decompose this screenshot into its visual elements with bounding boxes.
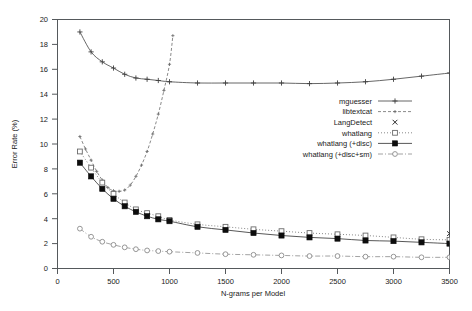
y-tick-label: 14 bbox=[40, 90, 48, 99]
y-tick-label: 6 bbox=[44, 190, 48, 199]
legend-label-whatlang-disc-sm-: whatlang (+disc+sm) bbox=[302, 150, 373, 159]
y-tick-label: 18 bbox=[40, 40, 48, 49]
y-axis-title: Error Rate (%) bbox=[10, 119, 19, 168]
legend-label-mguesser: mguesser bbox=[339, 97, 372, 106]
x-tick-label: 0 bbox=[55, 277, 59, 286]
y-tick-label: 2 bbox=[44, 239, 48, 248]
legend-label-whatlang-disc-: whatlang (+disc) bbox=[316, 139, 372, 148]
chart-legend: mguesserlibtextcatLangDetectwhatlangwhat… bbox=[302, 97, 412, 159]
x-axis-title: N-grams per Model bbox=[221, 289, 286, 298]
series-mguesser bbox=[77, 29, 452, 86]
chart-canvas: 02468101214161820 0500100015002000250030… bbox=[0, 0, 472, 311]
legend-label-whatlang: whatlang bbox=[341, 129, 372, 138]
y-tick-label: 8 bbox=[44, 165, 48, 174]
series-whatlang-disc- bbox=[77, 160, 452, 246]
x-tick-label: 1000 bbox=[161, 277, 178, 286]
x-tick-label: 2500 bbox=[329, 277, 346, 286]
x-tick-label: 2000 bbox=[273, 277, 290, 286]
legend-label-libtextcat: libtextcat bbox=[342, 107, 373, 116]
legend-swatch bbox=[378, 98, 412, 103]
legend-swatch bbox=[378, 141, 412, 146]
x-tick-label: 500 bbox=[107, 277, 120, 286]
series-whatlang bbox=[78, 149, 452, 242]
y-tick-label: 10 bbox=[40, 140, 48, 149]
x-axis-ticks: 0500100015002000250030003500 bbox=[55, 269, 457, 287]
legend-swatch bbox=[378, 130, 412, 135]
x-tick-label: 1500 bbox=[217, 277, 234, 286]
y-tick-label: 20 bbox=[40, 15, 48, 24]
y-tick-label: 0 bbox=[44, 264, 48, 273]
y-tick-label: 4 bbox=[44, 215, 48, 224]
y-tick-label: 16 bbox=[40, 65, 48, 74]
legend-label-langdetect: LangDetect bbox=[334, 118, 373, 127]
y-tick-label: 12 bbox=[40, 115, 48, 124]
legend-swatch bbox=[378, 110, 412, 113]
legend-swatch bbox=[378, 152, 412, 157]
legend-swatch bbox=[393, 120, 398, 125]
x-tick-label: 3000 bbox=[385, 277, 402, 286]
y-axis-ticks: 02468101214161820 bbox=[40, 15, 58, 273]
x-tick-label: 3500 bbox=[441, 277, 458, 286]
error-rate-line-chart: 02468101214161820 0500100015002000250030… bbox=[0, 0, 472, 311]
